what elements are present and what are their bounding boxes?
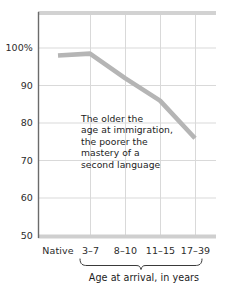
annotation-line-5: second language	[81, 159, 177, 170]
chart-annotation-note: The older the age at immigration, the po…	[81, 113, 177, 170]
annotation-line-3: the poorer the	[81, 136, 177, 147]
annotation-line-2: age at immigration,	[81, 124, 177, 135]
chart-container: 100% 90 80 70 60 50 Native 3–7 8–10 11–1…	[0, 0, 232, 288]
x-tick-label-17-39: 17–39	[175, 245, 216, 256]
y-tick-label-70: 70	[0, 156, 33, 166]
x-axis-title: Age at arrival, in years	[60, 272, 228, 283]
annotation-line-4: mastery of a	[81, 147, 177, 158]
y-tick-label-100: 100%	[0, 43, 33, 53]
y-tick-label-80: 80	[0, 118, 33, 128]
axis-brace	[80, 259, 202, 270]
y-tick-label-90: 90	[0, 81, 33, 91]
y-tick-label-60: 60	[0, 193, 33, 203]
annotation-line-1: The older the	[81, 113, 177, 124]
y-tick-label-50: 50	[0, 231, 33, 241]
